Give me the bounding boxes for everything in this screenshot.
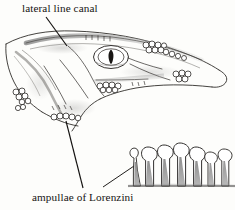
ampulla-unit (158, 145, 174, 186)
ampulla-unit (190, 147, 206, 186)
leader-ampullae-head (66, 121, 83, 188)
label-lateral-line-canal: lateral line canal (22, 3, 98, 14)
pore-cluster-infraorbital (97, 82, 121, 93)
ampulla-unit (142, 147, 158, 186)
leader-ampullae-detail (103, 166, 134, 187)
pore-cluster-snout-lower (173, 70, 191, 82)
shark-anatomy-illustration (0, 0, 235, 210)
eye (94, 46, 129, 69)
ampullae-detail-inset (128, 143, 235, 186)
figure-panel: lateral line canal ampullae of Lorenzini (0, 0, 235, 210)
ampulla-unit (174, 143, 190, 186)
label-ampullae-of-lorenzini: ampullae of Lorenzini (32, 192, 134, 203)
ampulla-unit (218, 149, 232, 186)
ampulla-unit (130, 148, 140, 186)
pore-cluster-nape (15, 104, 25, 110)
ampulla-unit (205, 152, 218, 186)
hyomandibular-canal (94, 76, 164, 82)
